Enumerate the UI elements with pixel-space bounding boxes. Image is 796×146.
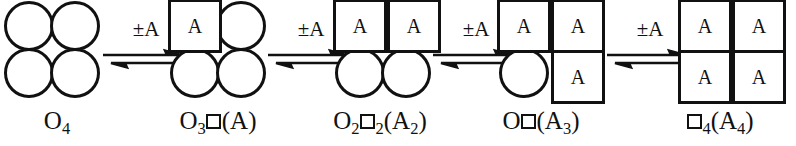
site-circle-bottom-left <box>4 48 54 98</box>
formula-label-2: O3(A) <box>143 106 293 138</box>
site-label: A <box>698 16 712 36</box>
formula-label-5: 4(A4) <box>645 106 795 138</box>
site-circle-bottom-left <box>335 48 385 98</box>
site-label: A <box>517 16 531 36</box>
site-square-top-right: A <box>732 0 786 53</box>
site-circle-bottom-left <box>499 48 549 98</box>
site-label: A <box>407 16 421 36</box>
site-square-top-left: A <box>678 0 732 53</box>
site-label: A <box>571 16 585 36</box>
site-square-top-right: A <box>387 0 441 53</box>
site-circle-top-left <box>4 1 54 51</box>
vacancy-box-glyph <box>687 114 702 129</box>
site-square-bottom-right: A <box>732 50 786 104</box>
site-label: A <box>571 67 585 87</box>
formula-label-3: O22(A2) <box>305 106 455 138</box>
site-label: A <box>188 16 202 36</box>
site-square-top-left: A <box>168 0 222 53</box>
site-circle-top-right <box>216 1 266 51</box>
vacancy-box-glyph <box>206 114 221 129</box>
formula-label-4: O(A3) <box>466 106 616 138</box>
cluster-1 <box>2 0 110 104</box>
site-square-bottom-left: A <box>678 50 732 104</box>
site-square-top-right: A <box>551 0 605 53</box>
reaction-scheme-diagram: O4AO3(A)AAO22(A2)AAAO(A3)AAAA4(A4)±A±A±A… <box>0 0 796 146</box>
site-label: A <box>353 16 367 36</box>
vacancy-box-glyph <box>521 114 536 129</box>
cluster-3: AA <box>333 0 441 104</box>
site-square-bottom-right: A <box>551 50 605 104</box>
site-circle-top-right <box>50 1 100 51</box>
site-circle-bottom-left <box>170 48 220 98</box>
site-square-top-left: A <box>333 0 387 53</box>
site-label: A <box>752 16 766 36</box>
cluster-5: AAAA <box>678 0 786 104</box>
vacancy-box-glyph <box>360 114 375 129</box>
site-label: A <box>752 67 766 87</box>
cluster-4: AAA <box>497 0 605 104</box>
formula-label-1: O4 <box>0 106 132 138</box>
site-label: A <box>698 67 712 87</box>
site-circle-bottom-right <box>50 48 100 98</box>
cluster-2: A <box>168 0 276 104</box>
site-square-top-left: A <box>497 0 551 53</box>
site-circle-bottom-right <box>216 48 266 98</box>
site-circle-bottom-right <box>381 48 431 98</box>
